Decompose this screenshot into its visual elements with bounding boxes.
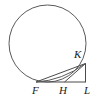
point-label-K: K: [74, 49, 81, 60]
point-label-F: F: [32, 85, 39, 96]
geometry-figure: F H L K: [0, 0, 100, 106]
point-label-L: L: [84, 85, 90, 96]
point-label-H: H: [59, 85, 67, 96]
